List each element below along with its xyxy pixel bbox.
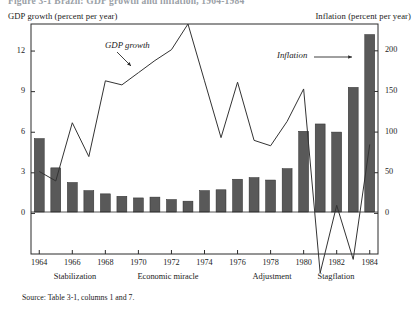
source-note: Source: Table 3-1, columns 1 and 7. (22, 293, 134, 302)
x-axis-year-tick: 1974 (190, 258, 220, 267)
inflation-bar (183, 201, 193, 212)
era-label: Stagflation (276, 272, 396, 281)
inflation-bar (282, 169, 292, 212)
inflation-bar (216, 190, 226, 212)
inflation-bar (51, 168, 61, 212)
inflation-bar (315, 124, 325, 212)
y-axis-right-tick: 200 (385, 45, 409, 54)
inflation-bar (34, 139, 44, 212)
x-axis-year-tick: 1970 (123, 258, 153, 267)
inflation-bar (67, 182, 77, 212)
y-axis-right-tick: 50 (385, 167, 409, 176)
gdp-growth-annotation: GDP growth (105, 40, 150, 50)
inflation-bar (150, 197, 160, 212)
y-axis-left-tick: 0 (7, 208, 25, 217)
inflation-bar (365, 35, 375, 212)
plot-frame (31, 24, 378, 254)
inflation-bar (84, 191, 94, 212)
inflation-bars (31, 35, 378, 212)
y-axis-left-tick: 12 (7, 46, 25, 55)
inflation-bar (117, 196, 127, 212)
inflation-annotation: Inflation (277, 50, 307, 60)
x-axis-year-tick: 1980 (289, 258, 319, 267)
x-axis-year-tick: 1984 (355, 258, 385, 267)
x-axis-year-tick: 1982 (322, 258, 352, 267)
x-axis-year-tick: 1978 (256, 258, 286, 267)
x-axis-year-tick: 1976 (223, 258, 253, 267)
x-axis-year-tick: 1968 (90, 258, 120, 267)
annotation-arrows (117, 52, 352, 66)
y-axis-left-tick: 9 (7, 86, 25, 95)
inflation-bar (200, 191, 210, 212)
inflation-bar (266, 180, 276, 212)
inflation-bar (249, 178, 259, 212)
era-label: Economic miracle (108, 272, 228, 281)
inflation-bar (166, 200, 176, 212)
inflation-bar (233, 179, 243, 212)
inflation-bar (348, 87, 358, 212)
figure-root: Figure 3-1 Brazil: GDP growth and inflat… (0, 0, 417, 311)
y-axis-left-tick: 6 (7, 127, 25, 136)
inflation-bar (332, 132, 342, 212)
x-axis-year-tick: 1964 (24, 258, 54, 267)
y-axis-right-tick: 0 (385, 208, 409, 217)
inflation-bar (299, 131, 309, 212)
y-axis-right-tick: 150 (385, 86, 409, 95)
x-axis-year-tick: 1972 (156, 258, 186, 267)
inflation-bar (133, 198, 143, 212)
y-axis-right-tick: 100 (385, 127, 409, 136)
plot-area: 036912 050100150200 19641966196819701972… (0, 0, 417, 311)
x-axis-year-tick: 1966 (57, 258, 87, 267)
inflation-bar (100, 194, 110, 212)
y-axis-left-tick: 3 (7, 167, 25, 176)
